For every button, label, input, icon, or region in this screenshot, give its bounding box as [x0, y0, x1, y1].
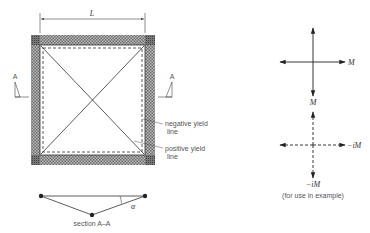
- hinge-node: [90, 213, 94, 217]
- negative-moment-right-label: −iM: [347, 141, 363, 150]
- slab-plan: L A A: [13, 9, 208, 165]
- svg-text:line: line: [167, 153, 178, 160]
- angle-alpha-label: α: [131, 202, 136, 211]
- section-mark-left: A: [13, 73, 29, 97]
- positive-moment-symbol: M M: [280, 28, 356, 107]
- support-node-right: [143, 194, 147, 198]
- svg-text:negative yield: negative yield: [165, 120, 208, 128]
- section-caption: section A–A: [74, 220, 111, 227]
- svg-text:line: line: [167, 128, 178, 135]
- dimension-l: L: [40, 9, 145, 33]
- positive-moment-right-label: M: [347, 58, 356, 67]
- negative-moment-symbol: −iM −iM (for use in example): [280, 112, 363, 200]
- svg-text:A: A: [170, 73, 175, 80]
- svg-text:A: A: [13, 73, 18, 80]
- negative-moment-bottom-label: −iM: [306, 180, 322, 189]
- yield-line-diagram: L A A: [0, 0, 370, 233]
- svg-text:positive yield: positive yield: [165, 145, 205, 153]
- section-a-a: α section A–A: [39, 194, 147, 227]
- positive-moment-bottom-label: M: [309, 98, 318, 107]
- support-node-left: [39, 194, 43, 198]
- section-mark-right: A: [158, 73, 175, 97]
- dimension-label: L: [89, 9, 95, 18]
- example-caption: (for use in example): [282, 192, 344, 200]
